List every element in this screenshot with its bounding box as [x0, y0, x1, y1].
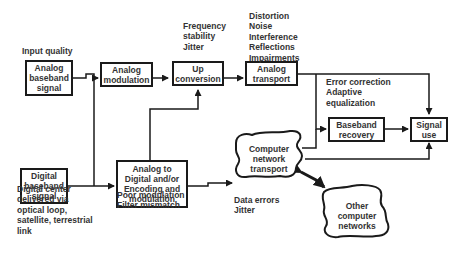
note-digital-center: Digital center delivered via optical loo… — [17, 184, 93, 236]
arrow-analog-baseband-to-modulation — [72, 74, 98, 78]
label-signal-use: Signal use — [416, 120, 442, 140]
arrow-a2d-to-network — [187, 183, 232, 186]
label-up-conversion: Up conversion — [175, 64, 220, 84]
box-signal-use: Signal use — [410, 117, 448, 142]
note-frequency-stability: Frequency stability Jitter — [183, 21, 226, 52]
note-input-quality: Input quality — [22, 46, 73, 56]
note-data-errors: Data errors Jitter — [234, 195, 279, 216]
arrow-a2d-to-upconv — [150, 90, 198, 160]
label-other-computer-networks: Other computer networks — [330, 201, 384, 231]
label-analog-modulation: Analog modulation — [104, 65, 150, 85]
box-analog-baseband-signal: Analog baseband signal — [25, 60, 73, 96]
box-baseband-recovery: Baseband recovery — [328, 117, 385, 142]
box-analog-modulation: Analog modulation — [100, 62, 153, 87]
arrow-network-to-recovery — [302, 129, 316, 148]
label-computer-network-transport: Computer network transport — [240, 144, 298, 174]
note-error-correction: Error correction Adaptive equalization — [326, 77, 391, 108]
box-up-conversion: Up conversion — [172, 61, 224, 86]
note-poor-modulation: Poor modulation Filter mismatch — [117, 190, 185, 211]
note-distortion-impairments: Distortion Noise Interference Reflection… — [249, 11, 300, 63]
label-baseband-recovery: Baseband recovery — [336, 120, 377, 140]
arrow-network-to-signal-use — [305, 143, 429, 159]
box-analog-transport: Analog transport — [245, 61, 298, 86]
arrow-network-bidirectional — [301, 172, 324, 187]
label-analog-baseband-signal: Analog baseband signal — [29, 63, 69, 93]
arrow-transport-to-recovery — [316, 74, 326, 129]
label-analog-transport: Analog transport — [253, 64, 290, 84]
